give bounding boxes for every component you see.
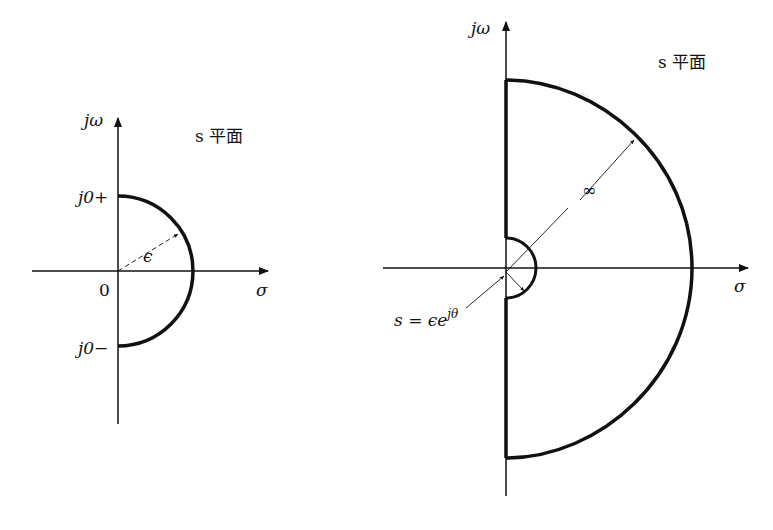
left-jw-label: jω	[80, 110, 103, 130]
right-small-arc-label: s = ϵejθ	[394, 307, 459, 330]
right-diagram: jω σ s 平面 ∞ s = ϵejθ	[383, 18, 748, 496]
left-top-label: j0+	[74, 187, 108, 207]
right-infinity-label: ∞	[582, 180, 596, 200]
left-sigma-label: σ	[256, 280, 268, 300]
right-jw-label: jω	[467, 18, 490, 38]
right-plane-label: s 平面	[658, 52, 706, 72]
left-plane-label: s 平面	[195, 126, 243, 146]
right-label-leader	[466, 276, 504, 308]
left-epsilon-label: ϵ	[143, 246, 153, 266]
left-bottom-label: j0−	[74, 338, 108, 358]
left-diagram: jω σ s 平面 0 j0+ j0− ϵ	[32, 110, 268, 424]
right-sigma-label: σ	[734, 276, 746, 296]
left-origin-label: 0	[99, 280, 110, 300]
nyquist-contour-figure: jω σ s 平面 0 j0+ j0− ϵ jω σ s 平面 ∞ s = ϵe…	[0, 0, 773, 530]
right-epsilon-radius	[506, 272, 524, 291]
right-large-semicircle	[506, 80, 692, 458]
